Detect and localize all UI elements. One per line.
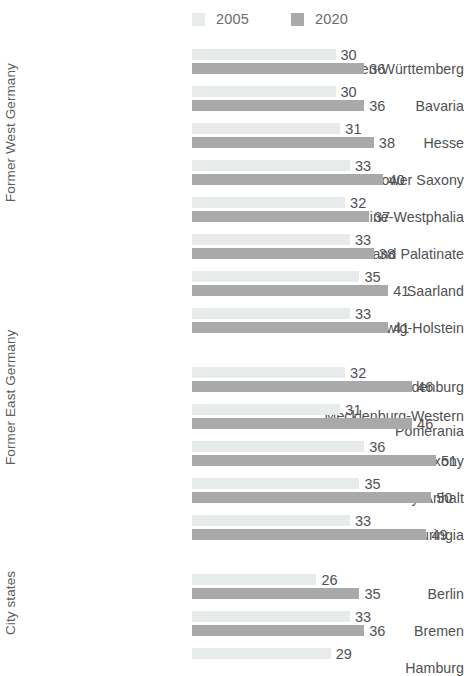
bar-fill: [192, 234, 350, 245]
bar-fill: [192, 441, 364, 452]
bar-value-label: 36: [369, 61, 385, 77]
bar-fill: [192, 100, 364, 111]
bar-fill: [192, 611, 350, 622]
bar-fill: [192, 418, 412, 429]
bar-value-label: 41: [393, 320, 409, 336]
bar-fill: [192, 515, 350, 526]
bar-value-label: 31: [345, 402, 361, 418]
bar-fill: [192, 271, 359, 282]
bar-fill: [192, 160, 350, 171]
bar-value-label: 31: [345, 121, 361, 137]
bar-value-label: 30: [341, 47, 357, 63]
bar-fill: [192, 625, 364, 636]
bar-fill: [192, 322, 388, 333]
group-axis-label: Former East Germany: [0, 445, 22, 463]
bar-value-label: 33: [355, 306, 371, 322]
bar-value-label: 46: [417, 416, 433, 432]
bar-value-label: 35: [364, 269, 380, 285]
bar-fill: [192, 123, 340, 134]
group-axis-label: City states: [0, 615, 22, 633]
bar-fill: [192, 137, 374, 148]
bar-value-label: 33: [355, 232, 371, 248]
group-axis-label-text: City states: [2, 613, 20, 635]
bar-value-label: 29: [336, 646, 352, 662]
bar-value-label: 50: [436, 490, 452, 506]
bar-fill: [192, 49, 336, 60]
bar-value-label: 38: [379, 135, 395, 151]
bar-value-label: 49: [431, 527, 447, 543]
bar-fill: [192, 648, 331, 659]
bar-value-label: 40: [388, 172, 404, 188]
group-axis-label-text: Former West Germany: [2, 180, 20, 202]
bar-fill: [192, 381, 412, 392]
bar-value-label: 36: [369, 623, 385, 639]
bar-fill: [192, 404, 340, 415]
bar-fill: [192, 174, 383, 185]
group-axis-label: Former West Germany: [0, 182, 22, 200]
bar-value-label: 37: [374, 209, 390, 225]
group-axis-label-text: Former East Germany: [2, 443, 20, 465]
bar-value-label: 32: [350, 365, 366, 381]
bar-fill: [192, 588, 359, 599]
bar-value-label: 35: [364, 586, 380, 602]
bar-fill: [192, 574, 316, 585]
bar-value-label: 32: [350, 195, 366, 211]
bar-value-label: 35: [364, 476, 380, 492]
category-label: Hamburg: [278, 661, 464, 676]
bar-fill: [192, 285, 388, 296]
bar-value-label: 38: [379, 246, 395, 262]
bar-value-label: 30: [341, 84, 357, 100]
bar-fill: [192, 197, 345, 208]
bar-value-label: 36: [369, 98, 385, 114]
bar-value-label: 33: [355, 158, 371, 174]
bar-fill: [192, 308, 350, 319]
bar-value-label: 41: [393, 283, 409, 299]
bar-fill: [192, 529, 426, 540]
bar-fill: [192, 63, 364, 74]
bar-fill: [192, 478, 359, 489]
bar-value-label: 33: [355, 513, 371, 529]
bar-fill: [192, 211, 369, 222]
bar-fill: [192, 455, 436, 466]
bar-value-label: 46: [417, 379, 433, 395]
bar-value-label: 36: [369, 439, 385, 455]
bar-fill: [192, 86, 336, 97]
bar-fill: [192, 367, 345, 378]
bar-value-label: 26: [321, 572, 337, 588]
bar-fill: [192, 248, 374, 259]
bar-value-label: 51: [441, 453, 457, 469]
bar-fill: [192, 492, 431, 503]
